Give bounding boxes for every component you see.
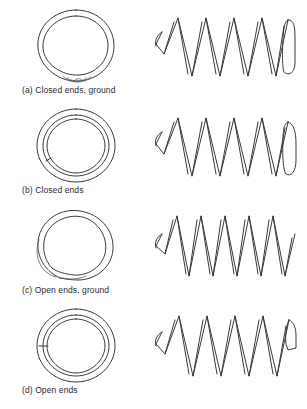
caption-b: (b) Closed ends	[22, 185, 84, 196]
spring-variant-a: (a) Closed ends, ground	[0, 0, 307, 100]
spring-variant-b: (b) Closed ends	[0, 100, 307, 200]
caption-d: (d) Open ends	[22, 385, 78, 396]
end-view-a	[30, 6, 122, 84]
side-view-b	[148, 104, 300, 186]
end-view-c	[30, 206, 122, 284]
end-view-b	[30, 106, 122, 184]
side-view-c	[148, 204, 300, 286]
spring-variant-d: (d) Open ends	[0, 300, 307, 400]
spring-variant-c: (c) Open ends, ground	[0, 200, 307, 300]
side-view-d	[148, 304, 300, 386]
spring-end-configurations-figure: (a) Closed ends, ground (b) Closed e	[0, 0, 307, 409]
caption-c: (c) Open ends, ground	[22, 285, 109, 296]
end-view-d	[30, 306, 122, 384]
side-view-a	[148, 4, 300, 86]
caption-a: (a) Closed ends, ground	[22, 85, 116, 96]
